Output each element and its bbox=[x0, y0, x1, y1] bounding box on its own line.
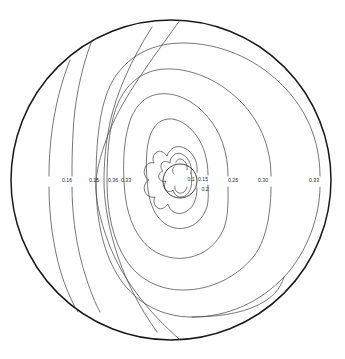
contour-loop-0-20 bbox=[146, 119, 208, 229]
contour-label: 0.2 bbox=[201, 186, 208, 192]
contour-label: 0.15 bbox=[198, 176, 208, 182]
contour-line-open-2 bbox=[72, 40, 92, 176]
contour-plot-svg: 0.16 0.15 0.36 0.33 0.1 0.15 0.2 0.25 0.… bbox=[0, 0, 345, 359]
contour-line-open-3 bbox=[49, 60, 70, 176]
contour-label: 0.15 bbox=[89, 177, 99, 183]
contour-loop-0-25 bbox=[124, 94, 228, 259]
contour-label: 0.33 bbox=[121, 177, 131, 183]
contour-plot: 0.16 0.15 0.36 0.33 0.1 0.15 0.2 0.25 0.… bbox=[0, 0, 345, 359]
contour-branch-bottom-right bbox=[192, 277, 284, 317]
contour-loop-innermost-c bbox=[175, 186, 187, 193]
contour-loop-innermost-b bbox=[173, 167, 175, 174]
domain-boundary-circle bbox=[11, 20, 331, 340]
contour-label: 0.25 bbox=[228, 177, 238, 183]
contour-label: 0.30 bbox=[258, 177, 268, 183]
contour-label: 0.1 bbox=[187, 176, 194, 182]
contour-line-open-3b bbox=[49, 187, 78, 312]
contour-label: 0.33 bbox=[309, 177, 319, 183]
contour-line-open-2b bbox=[72, 187, 100, 312]
contour-label: 0.36 bbox=[108, 177, 118, 183]
contour-label: 0.16 bbox=[62, 177, 72, 183]
